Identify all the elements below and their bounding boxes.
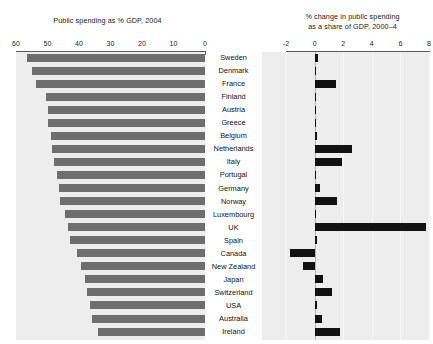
bar-change-uk — [315, 223, 427, 231]
bar-change-austria — [315, 106, 317, 114]
right-axis-tick-label: 0 — [313, 40, 317, 47]
bar-spending-finland — [46, 93, 205, 101]
country-label-germany: Germany — [205, 184, 262, 193]
bar-spending-australia — [92, 315, 205, 323]
right-chart-title: % change in public spending as a share o… — [272, 12, 433, 31]
bar-change-portugal — [315, 171, 317, 179]
bar-spending-spain — [70, 236, 205, 244]
bar-change-norway — [315, 197, 338, 205]
bar-change-new-zealand — [303, 262, 314, 270]
left-axis-tick-label: 40 — [75, 40, 83, 47]
right-chart-gridline — [400, 52, 401, 340]
bar-change-spain — [315, 236, 317, 244]
country-label-spain: Spain — [205, 236, 262, 245]
bar-change-greece — [315, 119, 317, 127]
bar-spending-france — [36, 80, 205, 88]
bar-change-denmark — [315, 67, 317, 75]
bar-spending-usa — [90, 301, 205, 309]
bar-spending-uk — [68, 223, 205, 231]
bar-spending-canada — [77, 249, 205, 257]
right-chart-gridline — [343, 52, 344, 340]
bar-change-belgium — [315, 132, 317, 140]
bar-change-luxembourg — [315, 210, 317, 218]
bar-spending-portugal — [57, 171, 205, 179]
chart-figure: Public spending as % GDP, 2004 % change … — [0, 0, 433, 344]
right-chart-gridline — [372, 52, 373, 340]
country-label-netherlands: Netherlands — [205, 144, 262, 153]
country-label-italy: Italy — [205, 157, 262, 166]
bar-spending-netherlands — [52, 145, 205, 153]
country-label-column: SwedenDenmarkFranceFinlandAustriaGreeceB… — [205, 52, 262, 340]
country-label-japan: Japan — [205, 275, 262, 284]
country-label-switzerland: Switzerland — [205, 288, 262, 297]
bar-change-netherlands — [315, 145, 352, 153]
left-axis-tick-label: 0 — [203, 40, 207, 47]
country-label-finland: Finland — [205, 92, 262, 101]
bar-spending-japan — [85, 275, 205, 283]
country-label-sweden: Sweden — [205, 53, 262, 62]
country-label-uk: UK — [205, 223, 262, 232]
country-label-austria: Austria — [205, 105, 262, 114]
bar-spending-germany — [59, 184, 205, 192]
left-axis-tick-label: 60 — [12, 40, 20, 47]
bar-spending-new-zealand — [81, 262, 205, 270]
right-chart-axis: -202468 — [286, 40, 429, 52]
bar-spending-luxembourg — [65, 210, 205, 218]
country-label-norway: Norway — [205, 197, 262, 206]
country-label-australia: Australia — [205, 314, 262, 323]
country-label-greece: Greece — [205, 118, 262, 127]
left-chart-title: Public spending as % GDP, 2004 — [10, 16, 205, 26]
bar-spending-sweden — [27, 54, 205, 62]
bar-change-france — [315, 80, 336, 88]
country-label-portugal: Portugal — [205, 170, 262, 179]
bar-spending-denmark — [32, 67, 205, 75]
right-chart-gridline — [429, 52, 430, 340]
bar-spending-belgium — [51, 132, 205, 140]
bar-change-japan — [315, 275, 324, 283]
bar-change-ireland — [315, 328, 341, 336]
bar-change-germany — [315, 184, 321, 192]
right-axis-tick-label: 2 — [341, 40, 345, 47]
right-axis-tick-label: -2 — [283, 40, 289, 47]
right-chart-gridline — [286, 52, 287, 340]
bar-change-canada — [290, 249, 314, 257]
left-chart-axis: 6050403020100 — [16, 40, 205, 52]
bar-spending-ireland — [98, 328, 205, 336]
right-axis-tick-label: 6 — [398, 40, 402, 47]
country-label-ireland: Ireland — [205, 327, 262, 336]
bar-change-finland — [315, 93, 317, 101]
country-label-denmark: Denmark — [205, 66, 262, 75]
left-axis-tick-label: 50 — [44, 40, 52, 47]
country-label-canada: Canada — [205, 249, 262, 258]
bar-spending-austria — [48, 106, 206, 114]
right-axis-tick-label: 4 — [370, 40, 374, 47]
left-chart-plot-area — [16, 52, 205, 340]
left-axis-tick-label: 10 — [170, 40, 178, 47]
left-axis-tick-label: 20 — [138, 40, 146, 47]
country-label-belgium: Belgium — [205, 131, 262, 140]
country-label-luxembourg: Luxembourg — [205, 210, 262, 219]
bar-change-usa — [315, 301, 318, 309]
left-axis-tick-label: 30 — [107, 40, 115, 47]
bar-spending-greece — [48, 119, 206, 127]
bar-change-australia — [315, 315, 322, 323]
right-chart-plot-area — [262, 52, 429, 340]
right-axis-tick-label: 8 — [427, 40, 431, 47]
country-label-new-zealand: New Zealand — [205, 262, 262, 271]
country-label-usa: USA — [205, 301, 262, 310]
bar-change-sweden — [315, 54, 319, 62]
bar-change-italy — [315, 158, 342, 166]
bar-spending-switzerland — [87, 288, 205, 296]
bar-spending-norway — [60, 197, 205, 205]
bar-change-switzerland — [315, 288, 332, 296]
bar-spending-italy — [54, 158, 205, 166]
country-label-france: France — [205, 79, 262, 88]
